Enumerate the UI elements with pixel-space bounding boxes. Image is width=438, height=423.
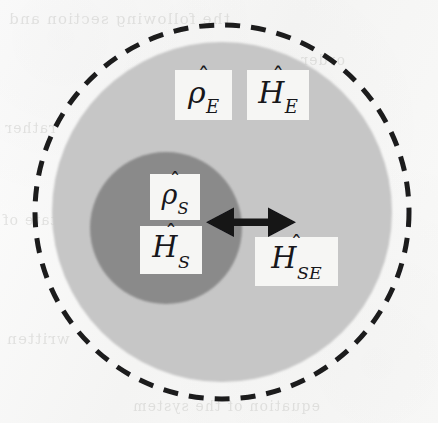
symbol-h-e: HˆE (258, 78, 298, 113)
label-rho-e: ρˆE (175, 70, 232, 120)
symbol-subscript: E (285, 96, 298, 117)
label-h-se: HˆSE (255, 237, 338, 286)
hat-accent: ˆ (271, 233, 321, 256)
label-rho-s: ρˆS (150, 174, 200, 220)
symbol-subscript: SE (297, 263, 322, 283)
hat-accent: ˆ (152, 222, 189, 245)
hat-accent: ˆ (258, 66, 298, 89)
symbol-rho-s: ρˆS (161, 181, 188, 214)
symbol-h-se: HˆSE (271, 244, 321, 278)
symbol-subscript: S (178, 252, 190, 272)
symbol-subscript: E (206, 96, 219, 117)
symbol-rho-e: ρˆE (188, 78, 219, 113)
diagram-canvas (0, 0, 438, 423)
hat-accent: ˆ (161, 170, 188, 191)
figure-container: the following section and order rather s… (0, 0, 438, 423)
label-h-s: HˆS (140, 226, 202, 274)
hat-accent: ˆ (188, 66, 219, 89)
symbol-subscript: S (178, 199, 189, 218)
symbol-h-s: HˆS (152, 233, 189, 267)
label-h-e: HˆE (247, 70, 309, 120)
